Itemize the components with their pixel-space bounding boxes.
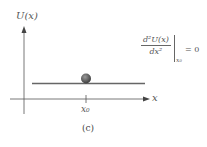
y-axis-label: U(x) xyxy=(16,11,38,21)
fraction-denominator: dx² xyxy=(141,46,171,56)
figure-caption: (c) xyxy=(82,124,94,133)
fraction-numerator: d²U(x) xyxy=(141,35,171,46)
x0-tick-label: x₀ xyxy=(81,105,90,114)
x-axis-label: x xyxy=(152,93,158,103)
y-axis-arrow-icon xyxy=(22,26,27,33)
evaluation-point: x₀ xyxy=(176,56,182,63)
x-axis-arrow-icon xyxy=(143,97,150,102)
second-derivative-fraction: d²U(x) dx² xyxy=(141,35,171,56)
potential-diagram xyxy=(0,0,207,147)
y-axis xyxy=(22,26,27,114)
evaluation-bar xyxy=(174,35,175,62)
equals-zero: = 0 xyxy=(185,45,199,54)
x-axis xyxy=(10,97,150,102)
ball xyxy=(81,74,91,84)
